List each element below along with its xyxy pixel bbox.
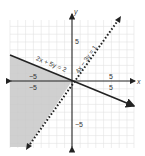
x-axis-label: x [137,78,141,85]
y-tick-neg5: −5 [75,121,83,128]
dotted-arrowhead-top [115,16,121,23]
y-axis-label: y [74,8,78,15]
y-tick-5: 5 [75,38,79,45]
graph-plot [0,0,145,156]
x-tick-neg5-below: −5 [29,84,37,91]
x-tick-5-below: 5 [109,84,113,91]
x-tick-5: 5 [109,73,113,80]
x-tick-neg5: −5 [29,73,37,80]
